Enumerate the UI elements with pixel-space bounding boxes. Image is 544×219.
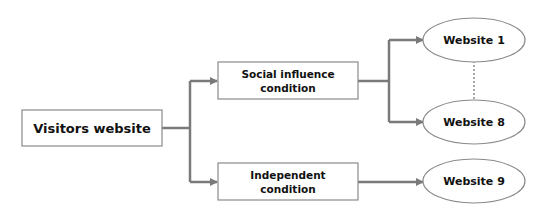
- node-website-1: Website 1: [423, 18, 525, 62]
- node-website-9: Website 9: [423, 159, 525, 203]
- node-website-9-label: Website 9: [443, 175, 505, 188]
- node-independent-condition: Independent condition: [218, 163, 358, 200]
- node-social-influence-condition: Social influence condition: [218, 62, 358, 99]
- node-website-1-label: Website 1: [443, 34, 505, 47]
- node-visitors-label: Visitors website: [33, 121, 151, 136]
- connector-social-to-websites: [358, 40, 423, 122]
- node-website-8: Website 8: [423, 100, 525, 144]
- node-website-8-label: Website 8: [443, 116, 505, 129]
- node-social-label-line-2: condition: [260, 82, 315, 94]
- node-independent-label-line-1: Independent: [250, 169, 325, 181]
- node-visitors-website: Visitors website: [22, 110, 162, 146]
- connector-visitors-to-conditions: [162, 81, 217, 182]
- node-social-label-line-1: Social influence: [241, 68, 334, 80]
- node-independent-label-line-2: condition: [260, 183, 315, 195]
- flow-diagram: Visitors website Social influence condit…: [0, 0, 544, 219]
